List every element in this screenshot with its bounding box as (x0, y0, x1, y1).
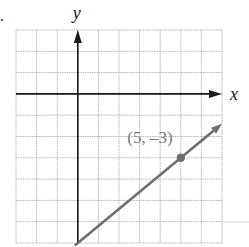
data-point (177, 154, 185, 162)
problem-marker: . (0, 7, 4, 24)
x-axis-arrow-icon (209, 90, 222, 98)
data-line-segment (75, 131, 214, 246)
point-label: (5, –3) (127, 128, 172, 147)
y-axis-label: y (71, 3, 81, 23)
data-points: (5, –3) (127, 128, 185, 162)
coordinate-plane: . x y (5, –3) (0, 0, 249, 247)
x-axis-label: x (229, 84, 238, 104)
y-axis-arrow-icon (74, 30, 82, 43)
grid (16, 30, 222, 243)
